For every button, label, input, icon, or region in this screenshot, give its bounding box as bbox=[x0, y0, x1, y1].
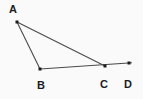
segment-AB bbox=[17, 22, 40, 69]
segment-AC bbox=[17, 22, 105, 66]
point-A-dot bbox=[16, 21, 19, 24]
vertex-label-D: D bbox=[124, 78, 132, 90]
vertex-label-B: B bbox=[37, 79, 45, 91]
segment-BD bbox=[40, 63, 132, 69]
vertex-label-A: A bbox=[9, 3, 17, 15]
point-C-dot bbox=[104, 65, 107, 68]
point-D-dot bbox=[128, 62, 131, 65]
vertex-label-C: C bbox=[100, 78, 108, 90]
triangle-figure-svg: ABCD bbox=[0, 0, 143, 99]
geometry-diagram: ABCD bbox=[0, 0, 143, 99]
point-B-dot bbox=[39, 68, 42, 71]
